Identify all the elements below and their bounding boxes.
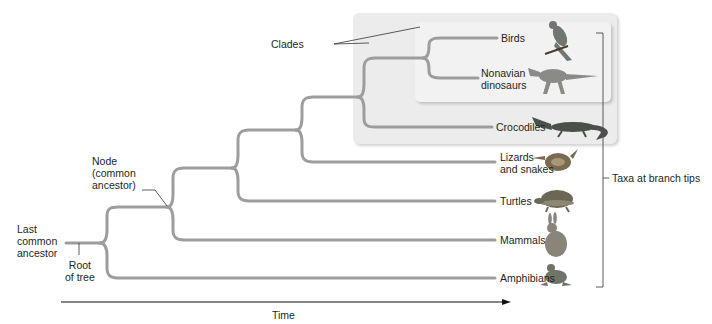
branch-mammals bbox=[167, 207, 495, 240]
taxon-amphibians: Amphibians bbox=[500, 272, 555, 284]
taxa-bracket-label: Taxa at branch tips bbox=[612, 172, 700, 184]
branch-node5-up bbox=[358, 58, 423, 97]
time-axis-label: Time bbox=[272, 309, 295, 321]
taxon-mammals: Mammals bbox=[500, 234, 546, 246]
clades-leader-outer bbox=[334, 27, 420, 44]
taxon-label-line: and snakes bbox=[500, 163, 554, 175]
taxon-lizards-and-snakes: Lizards and snakes bbox=[500, 151, 554, 175]
taxon-label-line: dinosaurs bbox=[481, 79, 527, 91]
branch-dinosaurs bbox=[423, 58, 478, 78]
lca-label-line: ancestor bbox=[17, 247, 57, 259]
node-label: Node (common ancestor) bbox=[92, 155, 136, 191]
node-label-line: ancestor) bbox=[92, 179, 136, 191]
root-label-line: Root bbox=[65, 259, 95, 271]
root-label-line: of tree bbox=[65, 271, 95, 283]
node-label-line: (common bbox=[92, 167, 136, 179]
branch-node4-up bbox=[296, 97, 358, 130]
taxon-nonavian-dinosaurs: Nonavian dinosaurs bbox=[481, 67, 527, 91]
last-common-ancestor-label: Last common ancestor bbox=[17, 223, 57, 259]
lca-label-line: Last bbox=[17, 223, 57, 235]
branch-node2-up bbox=[167, 168, 232, 207]
branch-birds bbox=[423, 38, 497, 58]
taxon-crocodiles: Crocodiles bbox=[496, 121, 546, 133]
branch-lizards bbox=[296, 130, 495, 162]
branch-node3-up bbox=[232, 130, 296, 168]
taxon-label-line: Nonavian bbox=[481, 67, 527, 79]
taxa-bracket bbox=[596, 33, 603, 287]
node-leader bbox=[142, 190, 167, 206]
bird-icon bbox=[545, 21, 572, 61]
branch-turtles bbox=[232, 168, 495, 201]
time-axis bbox=[61, 299, 511, 305]
branch-crocodiles bbox=[358, 97, 492, 127]
taxon-turtles: Turtles bbox=[500, 195, 532, 207]
arrowhead-icon bbox=[502, 299, 511, 305]
lca-label-line: common bbox=[17, 235, 57, 247]
node-label-line: Node bbox=[92, 155, 136, 167]
clades-label: Clades bbox=[271, 38, 304, 50]
turtle-icon bbox=[534, 190, 574, 212]
rabbit-icon bbox=[545, 212, 567, 257]
branch-node1-up bbox=[100, 207, 167, 243]
taxon-birds: Birds bbox=[501, 32, 525, 44]
dinosaur-icon bbox=[528, 68, 598, 94]
root-of-tree-label: Root of tree bbox=[65, 259, 95, 283]
branch-amphibians bbox=[100, 243, 495, 278]
taxon-label-line: Lizards bbox=[500, 151, 554, 163]
